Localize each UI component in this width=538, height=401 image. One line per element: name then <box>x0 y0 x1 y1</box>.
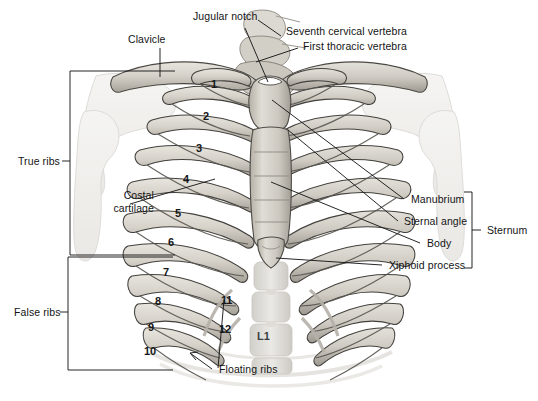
sternum-bone <box>249 76 292 268</box>
rib-number-5: 5 <box>175 207 181 219</box>
label-sternum: Sternum <box>487 224 527 236</box>
rib-number-12: 12 <box>219 323 231 335</box>
rib-number-7: 7 <box>163 266 169 278</box>
label-jugular-notch: Jugular notch <box>193 10 257 22</box>
label-seventh-cervical-vertebra: Seventh cervical vertebra <box>286 25 407 37</box>
rib-number-11: 11 <box>221 294 232 306</box>
label-sternal-angle: Sternal angle <box>404 215 467 227</box>
label-manubrium: Manubrium <box>411 193 464 205</box>
label-costal-cartilage-line1: Costal <box>92 189 154 201</box>
rib-number-1: 1 <box>211 78 217 90</box>
bracket-sternum <box>464 192 472 268</box>
label-false-ribs: False ribs <box>14 306 61 318</box>
rib-number-3: 3 <box>196 142 202 154</box>
label-body: Body <box>427 237 451 249</box>
label-true-ribs: True ribs <box>18 155 60 167</box>
leader-sternal-angle <box>288 130 398 221</box>
label-first-thoracic-vertebra: First thoracic vertebra <box>303 40 407 52</box>
rib-number-4: 4 <box>183 173 189 185</box>
rib-number-6: 6 <box>168 236 174 248</box>
rib-number-9: 9 <box>148 321 154 333</box>
label-clavicle: Clavicle <box>128 33 166 45</box>
rib-number-10: 10 <box>144 345 156 357</box>
label-floating-ribs: Floating ribs <box>219 363 278 375</box>
label-xiphoid-process: Xiphoid process <box>389 259 465 271</box>
rib-number-8: 8 <box>155 295 161 307</box>
rib-number-2: 2 <box>203 110 209 122</box>
label-l1-vertebra: L1 <box>257 330 270 342</box>
anatomy-figure: Clavicle Jugular notch Seventh cervical … <box>0 0 538 401</box>
label-costal-cartilage-line2: cartilage <box>84 202 154 214</box>
